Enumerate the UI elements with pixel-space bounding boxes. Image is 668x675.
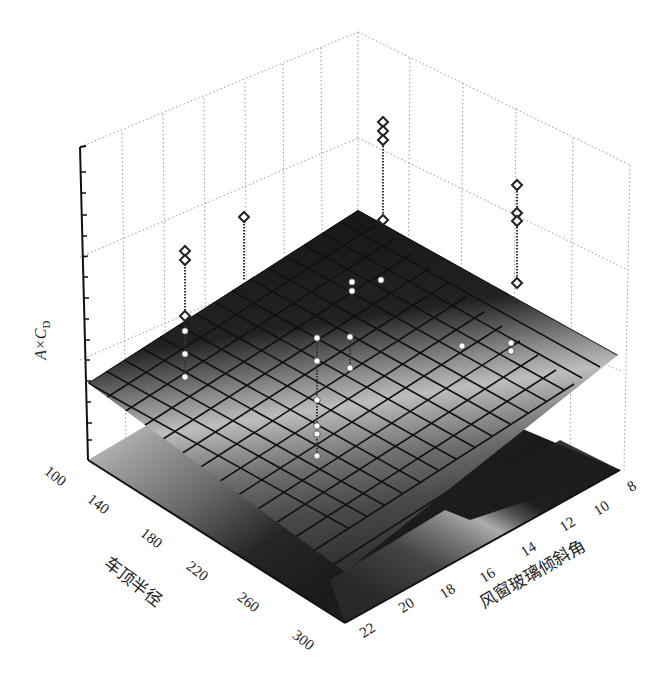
response-surface bbox=[88, 210, 618, 586]
z-axis bbox=[80, 146, 92, 460]
surface-plot bbox=[0, 0, 668, 675]
z-axis-title: A×CD bbox=[32, 320, 52, 359]
